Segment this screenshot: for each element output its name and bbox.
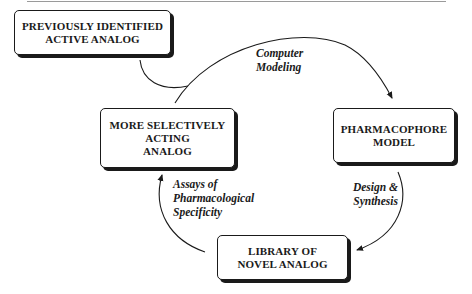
node-line: ACTIVE ANALOG xyxy=(45,33,140,46)
feeder-arrow xyxy=(140,60,188,88)
node-line: PREVIOUSLY IDENTIFIED xyxy=(22,20,163,33)
label-line: Assays of xyxy=(173,177,254,191)
node-more-selectively-acting-analog: MORE SELECTIVELY ACTING ANALOG xyxy=(100,108,235,168)
node-line: MORE SELECTIVELY xyxy=(110,119,226,132)
node-line: PHARMACOPHORE xyxy=(341,123,447,136)
edge-label-design-synthesis: Design & Synthesis xyxy=(346,180,398,208)
label-line: Synthesis xyxy=(346,194,398,208)
label-line: Modeling xyxy=(256,60,303,74)
label-line: Computer xyxy=(256,46,303,60)
node-line: NOVEL ANALOG xyxy=(237,258,327,271)
node-line: ACTING xyxy=(145,132,190,145)
edge-label-assays: Assays of Pharmacological Specificity xyxy=(173,177,254,219)
label-line: Specificity xyxy=(173,205,254,219)
label-line: Pharmacological xyxy=(173,191,254,205)
node-line: MODEL xyxy=(373,136,415,149)
node-line: LIBRARY OF xyxy=(248,245,317,258)
label-line: Design & xyxy=(346,180,398,194)
node-previously-identified-active-analog: PREVIOUSLY IDENTIFIED ACTIVE ANALOG xyxy=(14,10,171,55)
node-line: ANALOG xyxy=(143,145,192,158)
edge-label-computer-modeling: Computer Modeling xyxy=(256,46,303,74)
node-pharmacophore-model: PHARMACOPHORE MODEL xyxy=(333,108,455,163)
node-library-of-novel-analog: LIBRARY OF NOVEL ANALOG xyxy=(217,235,348,280)
